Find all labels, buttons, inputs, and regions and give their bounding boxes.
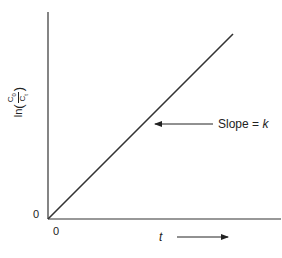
x-origin-label: 0 <box>53 225 59 237</box>
y-origin-label: 0 <box>33 208 39 220</box>
slope-annotation: Slope = k <box>218 117 268 131</box>
data-line <box>48 34 233 219</box>
x-axis-label: t <box>159 230 162 244</box>
y-axis-label: ln(C0Ct) <box>0 87 38 117</box>
